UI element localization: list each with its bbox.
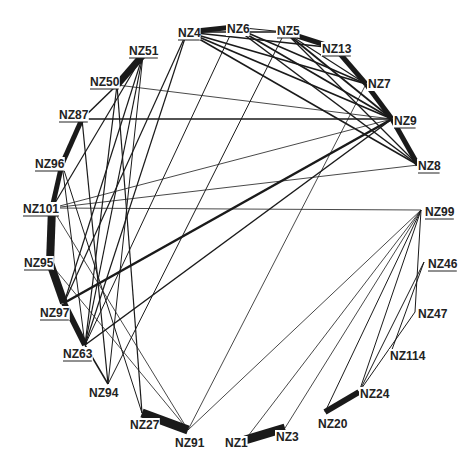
node-NZ91[interactable]: NZ91 (174, 436, 205, 450)
node-NZ47[interactable]: NZ47 (417, 307, 448, 321)
node-label: NZ27 (130, 418, 160, 432)
node-NZ5[interactable]: NZ5 (276, 24, 300, 38)
node-label: NZ50 (90, 75, 120, 89)
edge-NZ101-NZ9 (52, 119, 392, 208)
node-label: NZ96 (35, 157, 65, 171)
node-label: NZ4 (178, 26, 201, 40)
node-label: NZ94 (89, 386, 119, 400)
node-label: NZ13 (322, 42, 352, 56)
node-NZ8[interactable]: NZ8 (417, 159, 441, 173)
node-label: NZ47 (418, 307, 448, 321)
node-NZ24[interactable]: NZ24 (359, 387, 390, 401)
edge-NZ51-NZ50 (117, 55, 143, 85)
node-label: NZ51 (129, 44, 159, 58)
edge-NZ99-NZ24 (359, 210, 421, 392)
node-NZ63[interactable]: NZ63 (62, 347, 93, 361)
node-NZ87[interactable]: NZ87 (58, 108, 89, 122)
node-NZ94[interactable]: NZ94 (88, 386, 119, 400)
node-label: NZ24 (360, 387, 390, 401)
node-NZ4[interactable]: NZ4 (177, 26, 201, 40)
edge-NZ50-NZ27 (117, 85, 142, 413)
node-NZ27[interactable]: NZ27 (129, 418, 160, 432)
node-NZ99[interactable]: NZ99 (424, 205, 455, 219)
edge-NZ96-NZ27 (62, 164, 142, 413)
node-label: NZ3 (276, 430, 299, 444)
node-NZ50[interactable]: NZ50 (89, 75, 120, 89)
node-label: NZ101 (23, 202, 59, 216)
node-NZ101[interactable]: NZ101 (22, 202, 60, 216)
node-NZ51[interactable]: NZ51 (128, 44, 159, 58)
node-NZ13[interactable]: NZ13 (321, 42, 352, 56)
node-NZ1[interactable]: NZ1 (224, 436, 248, 450)
node-label: NZ9 (394, 114, 417, 128)
label-layer: NZ4NZ6NZ5NZ13NZ7NZ9NZ8NZ99NZ46NZ47NZ114N… (22, 22, 458, 450)
node-NZ7[interactable]: NZ7 (367, 77, 391, 91)
node-label: NZ63 (63, 347, 93, 361)
node-label: NZ91 (175, 436, 205, 450)
node-label: NZ6 (227, 22, 250, 36)
node-label: NZ95 (24, 256, 54, 270)
edge-NZ51-NZ63 (85, 55, 143, 345)
node-NZ46[interactable]: NZ46 (427, 257, 458, 271)
node-label: NZ8 (418, 159, 441, 173)
node-label: NZ46 (428, 257, 458, 271)
edge-NZ63-NZ9 (85, 119, 392, 345)
edge-NZ5-NZ7 (285, 32, 366, 84)
node-NZ9[interactable]: NZ9 (393, 114, 417, 128)
node-NZ20[interactable]: NZ20 (317, 417, 348, 431)
edge-NZ87-NZ96 (62, 119, 82, 164)
node-NZ97[interactable]: NZ97 (39, 306, 70, 320)
node-NZ3[interactable]: NZ3 (275, 430, 299, 444)
node-NZ6[interactable]: NZ6 (226, 22, 250, 36)
node-label: NZ1 (225, 436, 248, 450)
node-label: NZ5 (277, 24, 300, 38)
node-label: NZ87 (59, 108, 89, 122)
node-label: NZ97 (40, 306, 70, 320)
edge-NZ5-NZ94 (108, 32, 285, 384)
node-NZ114[interactable]: NZ114 (389, 349, 427, 363)
edge-NZ101-NZ99 (52, 208, 421, 210)
node-label: NZ7 (368, 77, 391, 91)
network-graph: NZ4NZ6NZ5NZ13NZ7NZ9NZ8NZ99NZ46NZ47NZ114N… (0, 0, 473, 473)
node-NZ96[interactable]: NZ96 (34, 157, 65, 171)
node-NZ95[interactable]: NZ95 (23, 256, 54, 270)
node-label: NZ99 (425, 205, 455, 219)
edge-NZ4-NZ8 (187, 32, 418, 165)
node-label: NZ20 (318, 417, 348, 431)
edge-NZ46-NZ24 (359, 262, 424, 392)
edge-NZ7-NZ91 (188, 84, 366, 430)
node-label: NZ114 (390, 349, 426, 363)
